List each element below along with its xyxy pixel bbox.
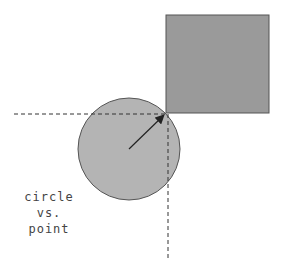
caption-line-3: point — [28, 222, 69, 236]
square-shape — [166, 15, 269, 113]
circle-vs-point-diagram: circle vs. point — [0, 0, 290, 267]
caption-line-1: circle — [24, 190, 73, 204]
caption-line-2: vs. — [37, 206, 62, 220]
